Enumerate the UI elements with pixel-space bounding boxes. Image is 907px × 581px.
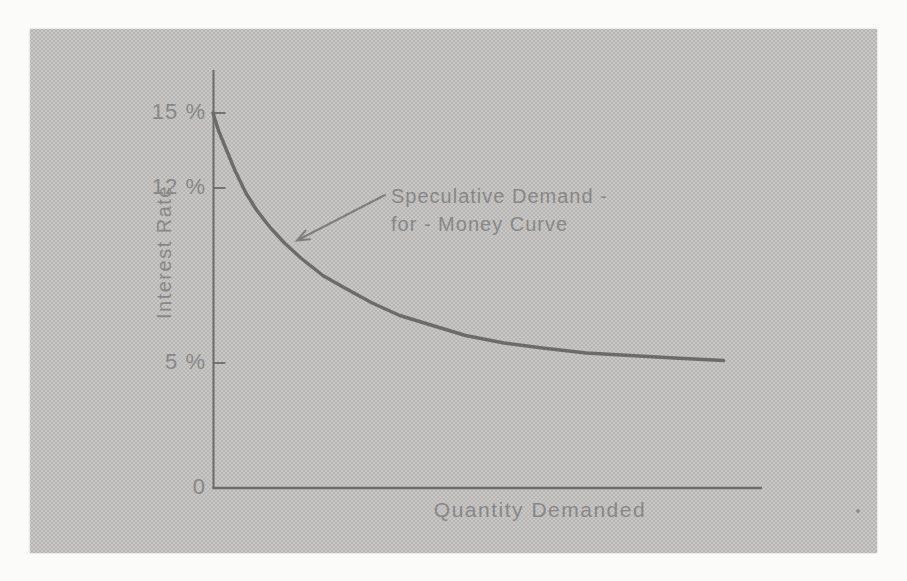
curve-annotation-line2: for - Money Curve [391, 210, 608, 238]
x-axis-title: Quantity Demanded [434, 498, 646, 522]
figure-panel: 15 % 12 % 5 % 0 Interest Rate Quantity D… [30, 29, 877, 553]
y-tick-label-5: 5 % [116, 350, 206, 374]
y-tick-label-15: 15 % [116, 100, 206, 124]
y-axis-title: Interest Rate [152, 185, 176, 319]
print-speck [856, 509, 860, 513]
annotation-arrow-icon [297, 195, 385, 241]
curve-annotation-line1: Speculative Demand - [391, 182, 608, 210]
y-tick-marks [213, 113, 226, 363]
origin-label: 0 [116, 475, 206, 499]
curve-annotation: Speculative Demand - for - Money Curve [391, 182, 608, 238]
